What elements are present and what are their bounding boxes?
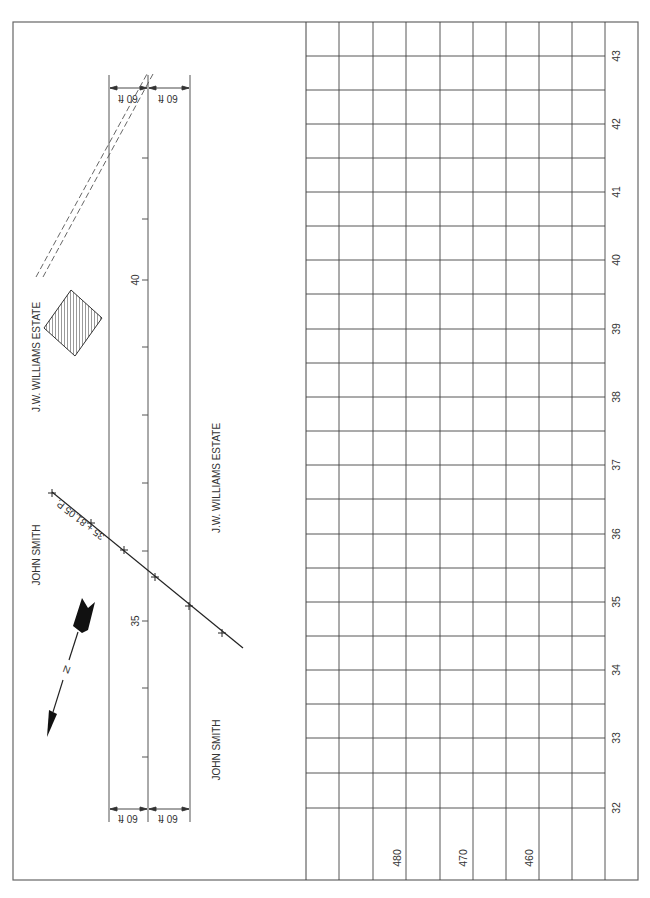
dimension-bottom xyxy=(110,807,189,811)
profile-station-label: 36 xyxy=(610,528,622,540)
profile-station-label: 41 xyxy=(610,186,622,198)
profile-grid xyxy=(306,22,605,880)
profile-station-label: 33 xyxy=(610,732,622,744)
profile-station-label: 35 xyxy=(610,596,622,608)
profile-station-label: 38 xyxy=(610,391,622,403)
property-label-williams-estate-right: J.W. WILLIAMS ESTATE xyxy=(211,423,222,533)
centerline-ticks xyxy=(142,158,148,757)
profile-elevation-label: 480 xyxy=(391,849,403,867)
right-of-way-lines xyxy=(109,75,190,822)
plan-profile-drawing xyxy=(0,0,650,898)
dimension-top-right-label: 60 ft xyxy=(158,93,177,104)
profile-station-label: 43 xyxy=(610,50,622,62)
profile-elevation-label: 470 xyxy=(457,849,469,867)
property-label-williams-estate-top: J.W. WILLIAMS ESTATE xyxy=(31,302,42,412)
dashed-road xyxy=(36,74,153,277)
profile-station-label: 32 xyxy=(610,802,622,814)
property-label-john-smith-left: JOHN SMITH xyxy=(31,524,42,585)
dimension-bottom-right-label: 60 ft xyxy=(158,813,177,824)
dimension-bottom-left-label: 60 ft xyxy=(118,813,137,824)
centerline-station-35: 35 xyxy=(130,615,141,626)
sheet-border xyxy=(13,22,638,880)
property-label-john-smith-right: JOHN SMITH xyxy=(211,719,222,780)
profile-station-label: 40 xyxy=(610,254,622,266)
dimension-top xyxy=(110,86,189,90)
profile-elevation-label: 460 xyxy=(523,849,535,867)
profile-station-label: 37 xyxy=(610,459,622,471)
building-hatched xyxy=(44,290,102,356)
profile-station-label: 42 xyxy=(610,118,622,130)
dimension-top-left-label: 60 ft xyxy=(118,93,137,104)
profile-station-label: 34 xyxy=(610,664,622,676)
profile-station-label: 39 xyxy=(610,323,622,335)
centerline-station-40: 40 xyxy=(130,274,141,285)
